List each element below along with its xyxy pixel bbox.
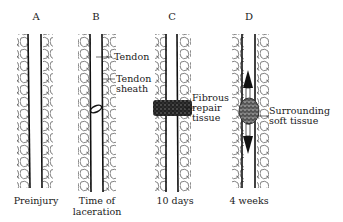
panel-c-letter: C: [168, 11, 176, 22]
tendon-label: Tendon: [114, 52, 149, 62]
panel-c-drawing: [153, 34, 195, 192]
panel-d-drawing: [232, 34, 269, 188]
caption-4-weeks: 4 weeks: [229, 195, 268, 206]
fibrous-repair-tissue-label: Fibrous repair tissue: [192, 93, 229, 123]
caption-10-days: 10 days: [156, 195, 193, 206]
panel-b-letter: B: [92, 11, 99, 22]
panel-d-letter: D: [245, 11, 253, 22]
tendon-sheath-label: Tendon sheath: [116, 74, 151, 94]
panel-b-drawing: [78, 34, 116, 192]
surrounding-soft-tissue-label: Surrounding soft tissue: [269, 106, 330, 126]
caption-preinjury: Preinjury: [14, 195, 59, 206]
panel-a-letter: A: [32, 11, 39, 22]
panel-a-drawing: [17, 34, 53, 188]
caption-time-of-laceration: Time of laceration: [73, 195, 122, 217]
